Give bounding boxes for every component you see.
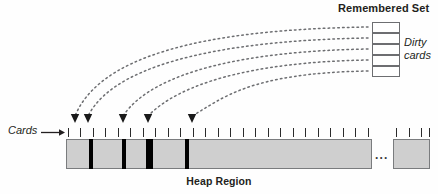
dirty-card-pointer-curve — [148, 60, 368, 116]
remembered-set-entry — [372, 44, 400, 55]
card-tick — [130, 128, 131, 137]
card-tick — [180, 128, 181, 137]
ellipsis-label: ... — [375, 148, 389, 162]
pointer-arrowhead — [84, 114, 92, 123]
card-tick — [293, 128, 294, 137]
card-tick — [396, 128, 397, 137]
dirty-card-pointer-curve — [88, 38, 368, 116]
cards-label: Cards — [8, 124, 37, 136]
remembered-set-entry — [372, 22, 400, 33]
remembered-set-title: Remembered Set — [338, 2, 429, 14]
card-tick — [205, 128, 206, 137]
dirty-card-marker — [185, 139, 189, 169]
dirty-card-marker — [146, 139, 153, 169]
card-tick — [368, 128, 369, 137]
card-tick — [168, 128, 169, 137]
card-tick — [68, 128, 69, 137]
pointer-arrowhead — [71, 114, 79, 123]
pointer-arrowhead — [144, 114, 152, 123]
dirty-card-pointer-curve — [192, 71, 368, 116]
card-tick — [243, 128, 244, 137]
dirty-card-pointer-curve — [75, 27, 368, 116]
heap-region-bar-tail — [393, 139, 430, 169]
card-tick — [268, 128, 269, 137]
remembered-set-entry — [372, 33, 400, 44]
dirty-cards-line1: Dirty — [404, 36, 427, 48]
remembered-set-entry — [372, 66, 400, 77]
heap-region-label: Heap Region — [0, 175, 438, 187]
card-tick — [143, 128, 144, 137]
card-tick — [421, 128, 422, 137]
card-tick — [105, 128, 106, 137]
dirty-card-pointer-curve — [123, 49, 368, 116]
heap-region-bar — [66, 139, 372, 169]
card-tick — [318, 128, 319, 137]
remembered-set-entry — [372, 55, 400, 66]
cards-arrow-icon — [41, 128, 65, 137]
card-tick — [255, 128, 256, 137]
card-tick — [193, 128, 194, 137]
card-tick — [355, 128, 356, 137]
pointer-arrowhead — [119, 114, 127, 123]
card-tick — [429, 128, 430, 137]
card-tick — [343, 128, 344, 137]
card-tick — [280, 128, 281, 137]
dirty-cards-line2: cards — [404, 49, 431, 61]
card-tick — [118, 128, 119, 137]
card-tick — [218, 128, 219, 137]
dirty-cards-label: Dirty cards — [404, 36, 431, 61]
card-tick — [330, 128, 331, 137]
card-tick — [80, 128, 81, 137]
dirty-card-marker — [89, 139, 93, 169]
dirty-card-marker — [122, 139, 126, 169]
card-tick — [409, 128, 410, 137]
pointer-arrowhead — [188, 114, 196, 123]
card-marking-diagram: Remembered Set Dirty cards Cards ... Hea… — [0, 0, 438, 194]
card-tick — [230, 128, 231, 137]
card-tick — [305, 128, 306, 137]
card-tick — [93, 128, 94, 137]
card-tick — [155, 128, 156, 137]
